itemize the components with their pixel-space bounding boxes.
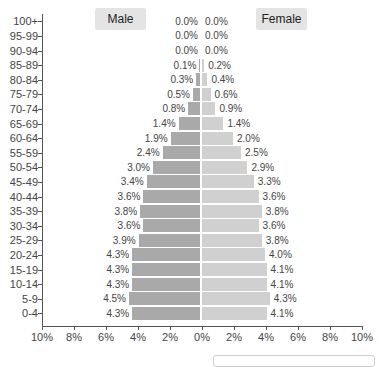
y-tick-label: 35-39 (0, 205, 38, 217)
y-tick-label: 85-89 (0, 59, 38, 71)
male-value-label: 3.6% (118, 190, 141, 203)
female-bar (201, 132, 233, 145)
male-value-label: 1.9% (145, 132, 168, 145)
female-value-label: 4.1% (271, 307, 294, 320)
female-bar (201, 263, 267, 276)
female-bar (201, 205, 262, 218)
male-bar (163, 146, 201, 159)
legend-female: Female (256, 8, 307, 30)
female-bar (201, 117, 223, 130)
male-bar (139, 234, 201, 247)
x-tick (298, 326, 299, 330)
y-tick (38, 51, 42, 52)
y-tick (38, 182, 42, 183)
male-value-label: 4.3% (106, 278, 129, 291)
y-tick (38, 124, 42, 125)
y-tick-label: 70-74 (0, 103, 38, 115)
y-tick-label: 10-14 (0, 278, 38, 290)
y-tick-label: 65-69 (0, 118, 38, 130)
y-tick (38, 226, 42, 227)
y-tick-label: 20-24 (0, 249, 38, 261)
y-tick-label: 60-64 (0, 132, 38, 144)
male-bar (179, 117, 201, 130)
female-bar (201, 278, 267, 291)
y-tick-label: 45-49 (0, 176, 38, 188)
male-bar (129, 292, 201, 305)
x-tick (362, 326, 363, 330)
y-tick-label: 80-84 (0, 74, 38, 86)
female-bar (201, 292, 270, 305)
y-tick (38, 270, 42, 271)
female-value-label: 4.0% (269, 248, 292, 261)
y-tick-label: 40-44 (0, 191, 38, 203)
bottom-panel (213, 355, 375, 367)
y-tick-label: 100+ (0, 15, 38, 27)
male-bar (147, 175, 201, 188)
female-value-label: 3.6% (263, 219, 286, 232)
female-bar (201, 175, 254, 188)
female-value-label: 4.1% (271, 278, 294, 291)
female-value-label: 0.0% (205, 29, 228, 42)
male-bar (140, 205, 201, 218)
female-value-label: 4.1% (271, 263, 294, 276)
legend-male: Male (95, 8, 146, 30)
male-value-label: 0.3% (170, 73, 193, 86)
female-bar (201, 248, 265, 261)
female-value-label: 0.9% (219, 102, 242, 115)
male-value-label: 3.4% (121, 175, 144, 188)
y-tick-label: 50-54 (0, 161, 38, 173)
female-value-label: 0.2% (208, 59, 231, 72)
y-tick-label: 95-99 (0, 30, 38, 42)
female-bar (201, 88, 211, 101)
female-value-label: 2.5% (245, 146, 268, 159)
female-bar (201, 307, 267, 320)
x-tick (42, 326, 43, 330)
y-tick (38, 211, 42, 212)
male-bar (143, 190, 201, 203)
y-tick (38, 255, 42, 256)
y-tick (38, 299, 42, 300)
y-tick-label: 15-19 (0, 264, 38, 276)
female-bar (201, 146, 241, 159)
male-bar (153, 161, 201, 174)
y-tick-label: 25-29 (0, 234, 38, 246)
male-value-label: 3.6% (118, 219, 141, 232)
y-tick (38, 284, 42, 285)
x-tick (330, 326, 331, 330)
y-tick-label: 75-79 (0, 88, 38, 100)
y-tick (38, 240, 42, 241)
male-value-label: 2.4% (137, 146, 160, 159)
x-tick (138, 326, 139, 330)
y-axis (42, 14, 43, 326)
male-value-label: 0.8% (162, 102, 185, 115)
y-tick (38, 109, 42, 110)
y-tick (38, 94, 42, 95)
female-value-label: 0.6% (215, 88, 238, 101)
female-bar (201, 161, 247, 174)
male-value-label: 4.3% (106, 307, 129, 320)
y-tick-label: 55-59 (0, 147, 38, 159)
male-bar (132, 248, 201, 261)
female-bar (201, 102, 215, 115)
y-tick (38, 80, 42, 81)
male-bar (132, 278, 201, 291)
female-bar (201, 234, 262, 247)
female-bar (201, 219, 259, 232)
y-tick (38, 313, 42, 314)
male-value-label: 0.5% (167, 88, 190, 101)
male-value-label: 0.1% (174, 59, 197, 72)
x-tick (202, 326, 203, 330)
y-tick (38, 21, 42, 22)
male-value-label: 4.3% (106, 248, 129, 261)
male-value-label: 4.3% (106, 263, 129, 276)
female-value-label: 3.8% (266, 205, 289, 218)
female-value-label: 0.0% (205, 44, 228, 57)
female-value-label: 4.3% (274, 292, 297, 305)
female-value-label: 3.3% (258, 175, 281, 188)
male-value-label: 3.9% (113, 234, 136, 247)
female-value-label: 3.6% (263, 190, 286, 203)
y-tick (38, 167, 42, 168)
male-value-label: 3.0% (127, 161, 150, 174)
y-tick-label: 90-94 (0, 45, 38, 57)
